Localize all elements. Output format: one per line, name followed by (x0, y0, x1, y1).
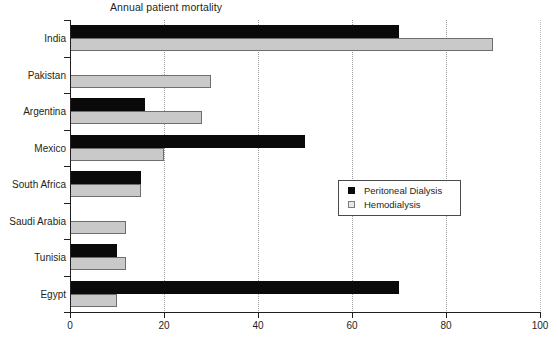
gridline-100 (540, 20, 541, 313)
y-axis-label-india: India (0, 33, 66, 44)
legend-label-peritoneal-dialysis: Peritoneal Dialysis (364, 186, 442, 195)
y-axis-tick-4 (64, 166, 70, 167)
y-axis-label-south-africa: South Africa (0, 179, 66, 190)
bar-egypt-hemodialysis (70, 294, 117, 307)
bar-south-africa-peritoneal-dialysis (70, 171, 141, 184)
bar-tunisia-hemodialysis (70, 257, 126, 270)
bar-tunisia-peritoneal-dialysis (70, 244, 117, 257)
y-axis-tick-7 (64, 276, 70, 277)
legend-label-hemodialysis: Hemodialysis (364, 200, 421, 209)
x-axis-label-20: 20 (158, 320, 169, 331)
y-axis-label-mexico: Mexico (0, 142, 66, 153)
x-axis-label-60: 60 (346, 320, 357, 331)
x-axis-tick-0 (70, 313, 71, 318)
x-axis-label-100: 100 (532, 320, 549, 331)
y-axis-label-egypt: Egypt (0, 288, 66, 299)
bar-argentina-peritoneal-dialysis (70, 98, 145, 111)
x-axis-tick-20 (164, 313, 165, 318)
legend-swatch-icon-hemodialysis (348, 201, 355, 208)
bar-mexico-peritoneal-dialysis (70, 135, 305, 148)
y-axis-tick-1 (64, 57, 70, 58)
bar-india-hemodialysis (70, 38, 493, 51)
bar-chart: Annual patient mortality IndiaPakistanAr… (0, 0, 558, 340)
y-axis-tick-0 (64, 20, 70, 21)
plot-area (70, 20, 540, 312)
y-axis-tick-2 (64, 93, 70, 94)
x-axis-label-40: 40 (252, 320, 263, 331)
y-axis-label-saudi-arabia: Saudi Arabia (0, 215, 66, 226)
chart-title: Annual patient mortality (110, 1, 222, 13)
x-axis-tick-100 (540, 313, 541, 318)
bar-saudi-arabia-hemodialysis (70, 221, 126, 234)
bar-egypt-peritoneal-dialysis (70, 281, 399, 294)
y-axis-label-tunisia: Tunisia (0, 252, 66, 263)
x-axis-tick-60 (352, 313, 353, 318)
bar-pakistan-hemodialysis (70, 75, 211, 88)
legend-item-hemodialysis: Hemodialysis (348, 200, 421, 209)
x-axis-tick-80 (446, 313, 447, 318)
y-axis-tick-6 (64, 239, 70, 240)
legend-swatch-icon-peritoneal-dialysis (348, 187, 355, 194)
y-axis-label-pakistan: Pakistan (0, 69, 66, 80)
bar-mexico-hemodialysis (70, 148, 164, 161)
bar-india-peritoneal-dialysis (70, 25, 399, 38)
y-axis-line (70, 20, 71, 313)
chart-legend: Peritoneal Dialysis Hemodialysis (338, 180, 461, 216)
y-axis-label-argentina: Argentina (0, 106, 66, 117)
x-axis-line (70, 312, 541, 313)
bar-south-africa-hemodialysis (70, 184, 141, 197)
x-axis-tick-40 (258, 313, 259, 318)
x-axis-label-0: 0 (67, 320, 73, 331)
bar-argentina-hemodialysis (70, 111, 202, 124)
legend-item-peritoneal-dialysis: Peritoneal Dialysis (348, 186, 442, 195)
x-axis-label-80: 80 (440, 320, 451, 331)
y-axis-tick-3 (64, 130, 70, 131)
y-axis-tick-5 (64, 203, 70, 204)
